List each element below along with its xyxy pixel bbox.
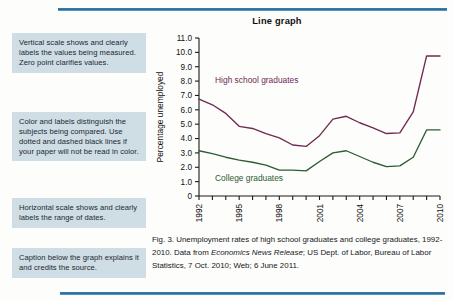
y-tick-label: 10.0	[176, 48, 192, 57]
annotation-vertical-scale: Vertical scale shows and clearly labels …	[12, 33, 146, 73]
annotation-color-and-labels: Color and labels distinguish the subject…	[12, 112, 146, 161]
y-tick-label: 7.0	[181, 91, 193, 100]
figure-title: Line graph	[152, 16, 402, 26]
y-tick-label: 4.0	[181, 134, 193, 143]
line-chart: 01.02.03.04.05.06.07.08.09.010.011.01992…	[152, 32, 447, 237]
x-tick-label: 1995	[235, 204, 244, 223]
bottom-rule	[60, 292, 445, 295]
chart-svg: 01.02.03.04.05.06.07.08.09.010.011.01992…	[152, 32, 447, 237]
x-tick-label: 2010	[436, 204, 445, 223]
figure-container: Line graph 01.02.03.04.05.06.07.08.09.01…	[152, 14, 447, 292]
y-tick-label: 2.0	[181, 163, 193, 172]
y-tick-label: 8.0	[181, 77, 193, 86]
figure-page: Vertical scale shows and clearly labels …	[0, 0, 453, 300]
y-axis-label: Percentage unemployed	[155, 71, 165, 162]
y-tick-label: 6.0	[181, 106, 193, 115]
annotation-horizontal-scale: Horizontal scale shows and clearly label…	[12, 198, 146, 228]
y-tick-label: 11.0	[177, 34, 193, 43]
y-tick-label: 9.0	[181, 63, 193, 72]
x-tick-label: 2004	[356, 204, 365, 223]
series-label-0: High school graduates	[215, 75, 298, 85]
series-label-1: College graduates	[215, 173, 283, 183]
y-tick-label: 1.0	[181, 178, 193, 187]
figure-caption: Fig. 3. Unemployment rates of high schoo…	[152, 234, 445, 272]
x-tick-label: 1998	[275, 204, 284, 223]
series-line-0	[199, 56, 440, 146]
top-rule	[58, 8, 447, 11]
annotation-caption: Caption below the graph explains it and …	[12, 248, 146, 278]
x-tick-label: 1992	[195, 204, 204, 223]
x-tick-label: 2001	[316, 204, 325, 223]
x-tick-label: 2007	[396, 204, 405, 223]
y-tick-label: 3.0	[181, 149, 193, 158]
y-tick-label: 0	[187, 192, 192, 201]
caption-source-title: Economics News Release	[211, 248, 303, 257]
y-tick-label: 5.0	[181, 120, 193, 129]
